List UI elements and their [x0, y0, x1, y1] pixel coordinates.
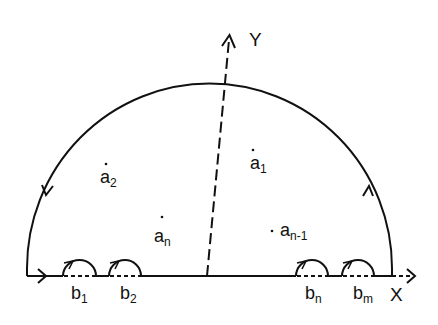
arc-left-arrow-icon	[42, 185, 53, 195]
pole-b2-label: b2	[120, 283, 137, 306]
arc-right-arrow-icon	[363, 186, 373, 196]
x-axis-label: X	[390, 284, 403, 305]
pole-a1-dot	[252, 149, 255, 152]
pole-a2-dot	[105, 163, 108, 166]
y-axis	[207, 40, 229, 276]
pole-bm-label: bm	[353, 283, 373, 306]
pole-b1-label: b1	[71, 283, 88, 306]
pole-an-dot	[161, 216, 164, 219]
semicircle-contour	[27, 83, 392, 276]
contour-diagram: Y X a1 a2 an an-1 b1 b2 bn bm	[0, 0, 438, 325]
pole-an1-dot	[271, 230, 274, 233]
pole-an-label: an	[154, 226, 171, 249]
pole-an1-label: an-1	[280, 220, 308, 243]
pole-a1-label: a1	[250, 153, 267, 176]
pole-a2-label: a2	[100, 167, 117, 190]
pole-bn-label: bn	[305, 283, 322, 306]
y-axis-label: Y	[249, 29, 262, 50]
